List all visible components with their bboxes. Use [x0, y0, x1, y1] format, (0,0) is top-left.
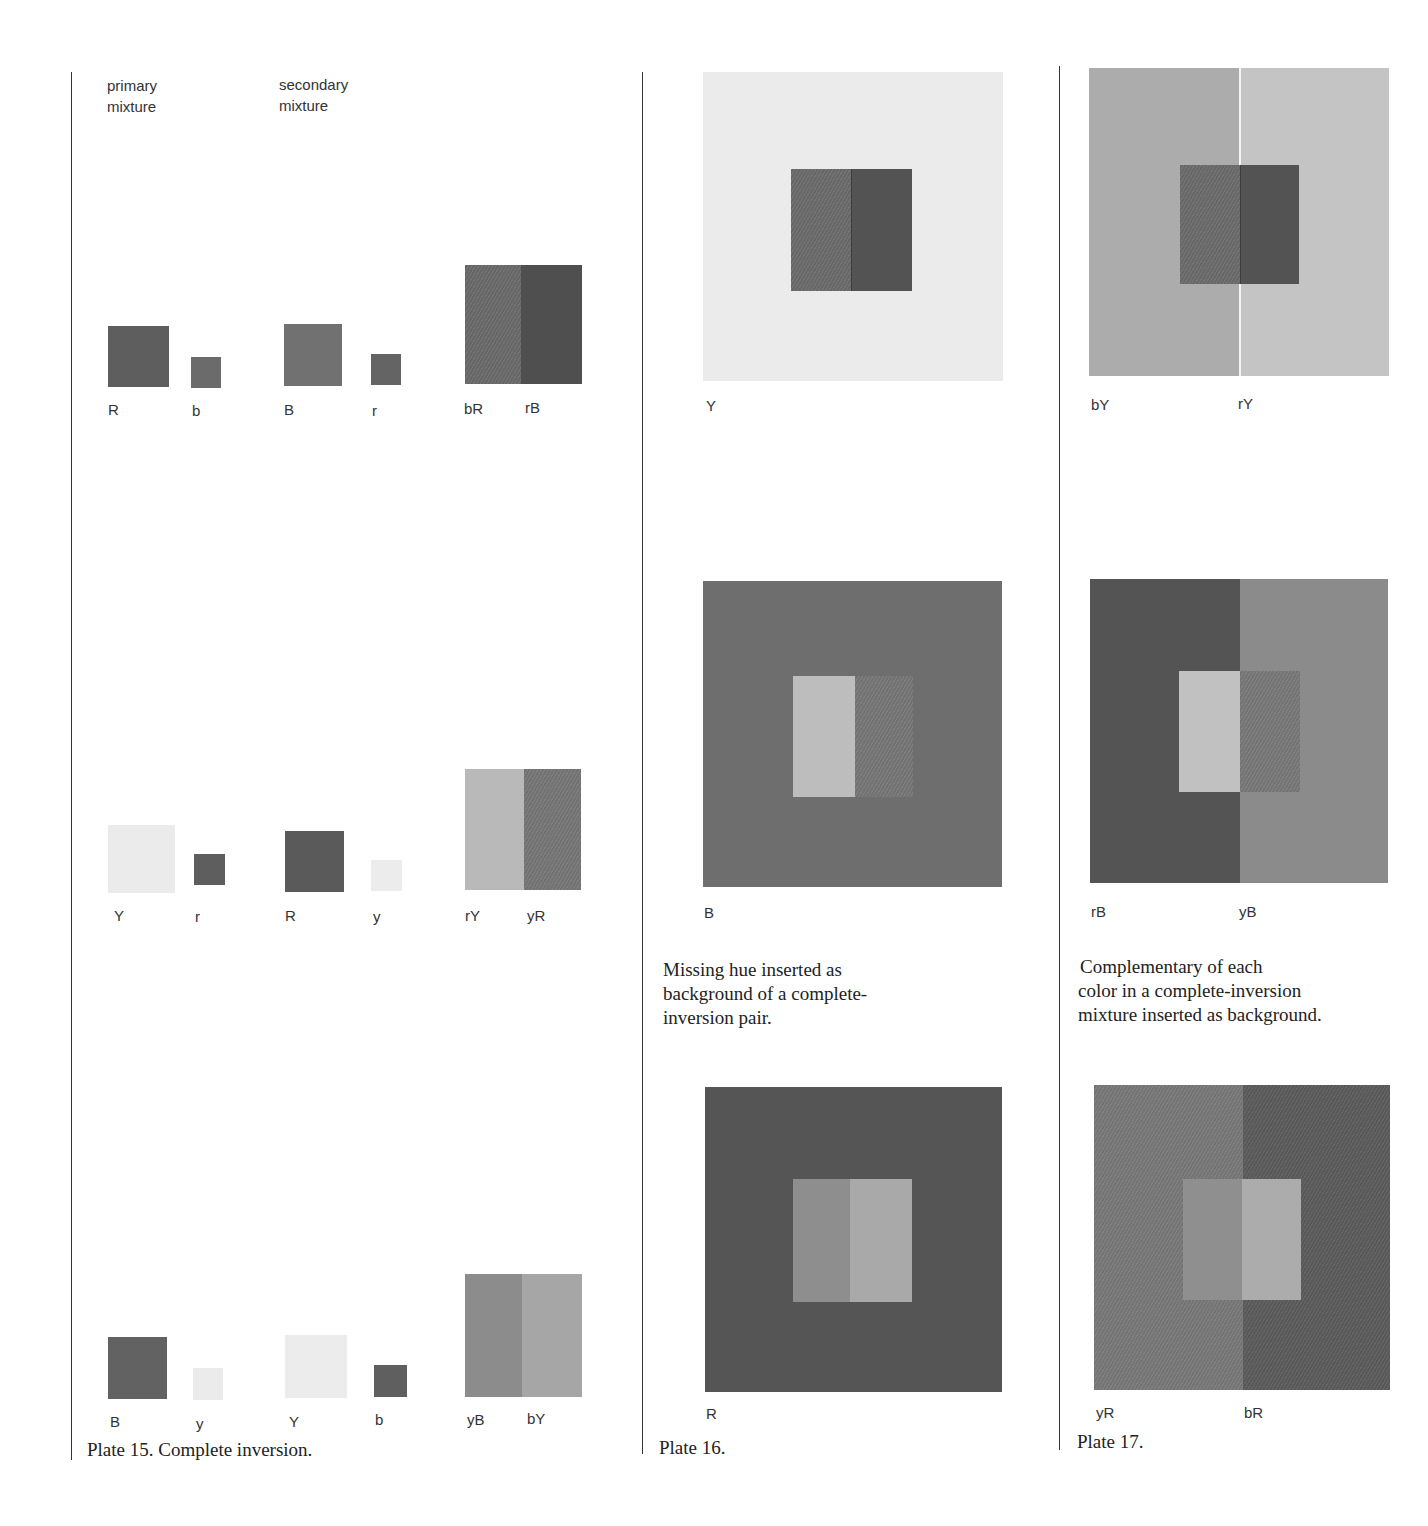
description-line: color in a complete-inversion: [1078, 979, 1322, 1003]
inner-right-half: [855, 676, 913, 797]
plate-17-description: Complementary of each color in a complet…: [1078, 955, 1322, 1027]
label-secondary-small: r: [372, 403, 377, 418]
result-right-half: [521, 265, 582, 384]
result-left-half: [465, 1274, 522, 1397]
plate-17-panel-3-label-left: yR: [1096, 1405, 1114, 1420]
header-line: mixture: [279, 95, 348, 116]
plate-17-panel-3-label-right: bR: [1244, 1405, 1263, 1420]
label-secondary-big: Y: [289, 1414, 299, 1429]
label-secondary-small: y: [373, 909, 381, 924]
plate-16-panel-1-label: Y: [706, 398, 716, 413]
header-line: primary: [107, 75, 157, 96]
inner-left-half: [1183, 1179, 1242, 1300]
swatch-secondary-small: [374, 1365, 407, 1397]
result-left-half: [465, 769, 524, 890]
inner-square: [793, 1179, 912, 1302]
label-primary-big: Y: [114, 908, 124, 923]
header-line: mixture: [107, 96, 157, 117]
plate-17-panel-1: [1089, 68, 1389, 376]
swatch-secondary-small: [371, 354, 401, 385]
description-line: background of a complete-: [663, 982, 867, 1006]
inner-square: [1180, 165, 1299, 284]
label-result-left: bR: [464, 401, 483, 416]
inner-left-half: [1179, 671, 1240, 792]
swatch-primary-small: [193, 1368, 223, 1400]
inner-square: [791, 169, 912, 291]
label-primary-small: r: [195, 909, 200, 924]
column-divider-middle: [642, 72, 643, 1454]
secondary-mixture-header: secondary mixture: [279, 74, 348, 116]
label-primary-small: b: [192, 403, 200, 418]
plate-17-panel-2-label-right: yB: [1239, 904, 1257, 919]
description-line: inversion pair.: [663, 1006, 867, 1030]
swatch-primary-small: [191, 357, 221, 388]
column-divider-right: [1059, 66, 1060, 1450]
result-right-half: [522, 1274, 582, 1397]
label-primary-small: y: [196, 1416, 204, 1431]
swatch-result-pair: [465, 1274, 582, 1397]
plate-17-caption: Plate 17.: [1077, 1430, 1144, 1454]
label-secondary-big: R: [285, 908, 296, 923]
label-result-right: bY: [527, 1411, 545, 1426]
description-line: Complementary of each: [1078, 955, 1322, 979]
inner-right-half: [1240, 165, 1299, 284]
primary-mixture-header: primary mixture: [107, 75, 157, 117]
column-divider-left: [71, 72, 72, 1460]
swatch-secondary-big: [285, 831, 344, 892]
inner-square: [1179, 671, 1300, 792]
plate-17-panel-2-label-left: rB: [1091, 904, 1106, 919]
swatch-secondary-small: [371, 860, 402, 891]
label-secondary-small: b: [375, 1412, 383, 1427]
plate-17-panel-1-label-left: bY: [1091, 397, 1109, 412]
description-line: mixture inserted as background.: [1078, 1003, 1322, 1027]
inner-square: [1183, 1179, 1301, 1300]
label-secondary-big: B: [284, 402, 294, 417]
header-line: secondary: [279, 74, 348, 95]
swatch-result-pair: [465, 265, 582, 384]
swatch-primary-big: [108, 825, 175, 893]
label-result-right: yR: [527, 908, 545, 923]
plate-16-panel-3: [705, 1087, 1002, 1392]
plate-15-caption: Plate 15. Complete inversion.: [87, 1438, 312, 1462]
plate-16-panel-2-label: B: [704, 905, 714, 920]
result-right-half: [524, 769, 581, 890]
inner-right-half: [851, 169, 912, 291]
label-result-left: rY: [465, 908, 480, 923]
inner-right-half: [1242, 1179, 1301, 1300]
label-result-right: rB: [525, 400, 540, 415]
swatch-secondary-big: [285, 1335, 347, 1398]
plate-17-panel-1-label-right: rY: [1238, 396, 1253, 411]
plate-16-description: Missing hue inserted as background of a …: [663, 958, 867, 1030]
swatch-secondary-big: [284, 324, 342, 386]
inner-square: [793, 676, 913, 797]
label-result-left: yB: [467, 1412, 485, 1427]
inner-right-half: [1240, 671, 1300, 792]
swatch-primary-big: [108, 326, 169, 387]
swatch-primary-big: [108, 1337, 167, 1399]
inner-left-half: [793, 676, 855, 797]
plate-16-panel-1: [703, 72, 1003, 381]
result-left-half: [465, 265, 521, 384]
plate-17-panel-2: [1090, 579, 1388, 883]
inner-right-half: [850, 1179, 912, 1302]
label-primary-big: R: [108, 402, 119, 417]
inner-left-half: [1180, 165, 1240, 284]
swatch-result-pair: [465, 769, 581, 890]
plate-16-panel-3-label: R: [706, 1406, 717, 1421]
plate-17-panel-3: [1094, 1085, 1390, 1390]
plate-16-panel-2: [703, 581, 1002, 887]
description-line: Missing hue inserted as: [663, 958, 867, 982]
inner-left-half: [791, 169, 851, 291]
plate-16-caption: Plate 16.: [659, 1436, 726, 1460]
label-primary-big: B: [110, 1414, 120, 1429]
inner-left-half: [793, 1179, 850, 1302]
swatch-primary-small: [194, 854, 225, 885]
